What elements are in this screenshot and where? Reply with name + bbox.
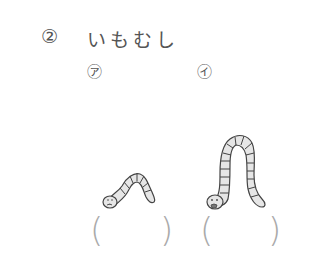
- answer-box-a[interactable]: [105, 212, 155, 248]
- option-label-a: ㋐: [87, 60, 102, 81]
- question-number: ②: [41, 25, 58, 47]
- question-title: いもむし: [87, 25, 179, 52]
- answer-box-i[interactable]: [215, 212, 265, 248]
- answer-open-paren-i: (: [200, 210, 213, 250]
- answer-close-paren-a: ): [160, 210, 173, 250]
- answer-open-paren-a: (: [90, 210, 103, 250]
- caterpillar-i-image: [202, 133, 272, 213]
- option-label-i: ㋑: [197, 60, 212, 81]
- answer-close-paren-i: ): [268, 210, 281, 250]
- caterpillar-a-image: [100, 170, 160, 210]
